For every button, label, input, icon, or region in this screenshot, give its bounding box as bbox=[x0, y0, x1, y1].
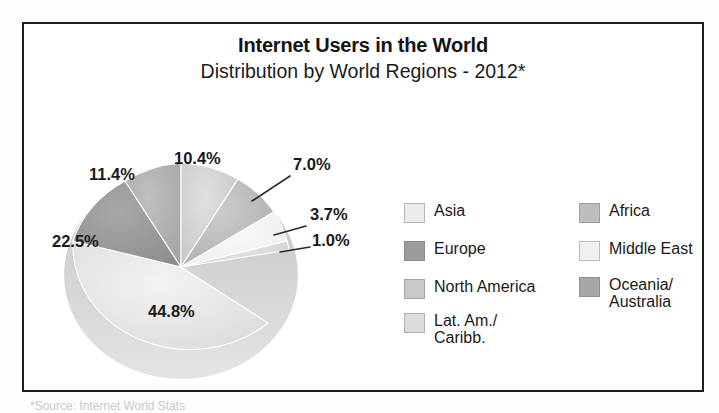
legend-label-latam-caribb: Lat. Am./ Caribb. bbox=[434, 312, 497, 346]
legend-swatch-africa-icon bbox=[579, 203, 600, 223]
page-title: Internet Users in the World bbox=[24, 32, 702, 58]
chart-subtitle: Distribution by World Regions - 2012* bbox=[24, 58, 702, 84]
chart-title-block: Internet Users in the World Distribution… bbox=[24, 32, 702, 84]
pie-label-europe: 22.5% bbox=[52, 232, 99, 251]
legend-label-europe: Europe bbox=[434, 240, 486, 257]
legend-swatch-middle-east-icon bbox=[579, 241, 600, 261]
chart-frame-border: Internet Users in the World Distribution… bbox=[22, 22, 704, 392]
pie-label-asia: 44.8% bbox=[148, 302, 195, 321]
pie-label-oceania: 11.4% bbox=[89, 165, 135, 184]
legend-label-asia: Asia bbox=[434, 202, 465, 219]
pie-plot-area: 10.4% 7.0% 3.7% 1.0% 11.4% 22.5% 44.8% bbox=[44, 119, 364, 384]
legend-item-europe[interactable]: Europe bbox=[404, 240, 486, 261]
legend-label-north-america: North America bbox=[434, 278, 535, 295]
leader-line-africa bbox=[252, 176, 290, 201]
legend-item-asia[interactable]: Asia bbox=[404, 202, 465, 223]
legend-item-north-america[interactable]: North America bbox=[404, 278, 535, 299]
legend-label-oceania-australia: Oceania/ Australia bbox=[609, 276, 673, 310]
pie-label-middle-east: 3.7% bbox=[310, 205, 348, 224]
legend-item-latam-caribb[interactable]: Lat. Am./ Caribb. bbox=[404, 312, 497, 346]
pie-label-africa: 7.0% bbox=[293, 155, 331, 174]
chart-legend: Asia Europe North America Lat. Am./ Cari… bbox=[402, 202, 719, 352]
legend-item-middle-east[interactable]: Middle East bbox=[579, 240, 693, 261]
legend-swatch-europe-icon bbox=[404, 241, 425, 261]
legend-swatch-oceania-australia-icon bbox=[579, 277, 600, 297]
legend-item-oceania-australia[interactable]: Oceania/ Australia bbox=[579, 276, 673, 310]
pie-label-north-america: 10.4% bbox=[174, 149, 221, 168]
legend-swatch-latam-caribb-icon bbox=[404, 313, 425, 333]
pie-label-latam-caribb: 1.0% bbox=[312, 231, 350, 250]
legend-item-africa[interactable]: Africa bbox=[579, 202, 650, 223]
legend-swatch-north-america-icon bbox=[404, 279, 425, 299]
pie-chart-figure: Internet Users in the World Distribution… bbox=[0, 0, 719, 413]
legend-swatch-asia-icon bbox=[404, 203, 425, 223]
footnote-partial: *Source: Internet World Stats bbox=[30, 400, 380, 413]
legend-label-middle-east: Middle East bbox=[609, 240, 693, 257]
legend-label-africa: Africa bbox=[609, 202, 650, 219]
